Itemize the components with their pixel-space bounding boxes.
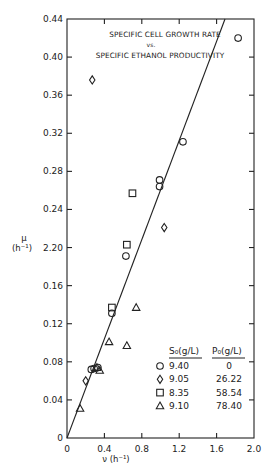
legend-p0-value: 78.40 bbox=[216, 401, 242, 411]
y-tick-label: 0.24 bbox=[43, 204, 63, 214]
x-tick-label: 2.0 bbox=[247, 444, 262, 454]
x-tick-label: 0.4 bbox=[97, 444, 112, 454]
y-tick-label: 0.32 bbox=[43, 128, 63, 138]
triangle-marker-icon bbox=[132, 304, 139, 311]
y-tick-label: 0.16 bbox=[43, 281, 63, 291]
y-tick-label: 0.28 bbox=[43, 166, 63, 176]
legend: S₀(g/L)P₀(g/L)9.4009.0526.228.3558.549.1… bbox=[156, 346, 245, 411]
y-axis-symbol: μ bbox=[21, 233, 27, 243]
y-axis-unit: (h⁻¹) bbox=[12, 243, 32, 253]
circle-marker-icon bbox=[180, 139, 187, 146]
legend-p0-value: 26.22 bbox=[216, 374, 242, 384]
triangle-marker-icon bbox=[105, 338, 112, 345]
y-tick-label: 2.20 bbox=[43, 243, 63, 253]
y-tick-label: 0.44 bbox=[43, 14, 63, 24]
title-line-1: SPECIFIC CELL GROWTH RATE bbox=[109, 30, 221, 39]
x-tick-label: 1.2 bbox=[172, 444, 186, 454]
y-tick-label: 0.12 bbox=[43, 319, 63, 329]
circle-marker-icon bbox=[123, 253, 130, 260]
legend-s0-value: 8.35 bbox=[169, 388, 189, 398]
circle-marker-icon bbox=[156, 177, 163, 184]
legend-header-s0: S₀(g/L) bbox=[169, 346, 199, 356]
y-tick-label: 0.04 bbox=[43, 395, 63, 405]
square-marker-icon bbox=[157, 389, 164, 396]
title-line-2: SPECIFIC ETHANOL PRODUCTIVITY bbox=[96, 51, 225, 60]
triangle-marker-icon bbox=[76, 405, 83, 412]
legend-s0-value: 9.10 bbox=[169, 401, 189, 411]
circle-marker-icon bbox=[157, 363, 164, 370]
square-marker-icon bbox=[124, 241, 131, 248]
triangle-marker-icon bbox=[156, 402, 163, 409]
legend-p0-value: 58.54 bbox=[216, 388, 242, 398]
title-vs: vs. bbox=[147, 41, 156, 48]
x-axis-label: ν (h⁻¹) bbox=[102, 454, 129, 464]
y-tick-label: 0.36 bbox=[43, 90, 63, 100]
chart-title: SPECIFIC CELL GROWTH RATE vs. SPECIFIC E… bbox=[96, 30, 225, 60]
x-tick-label: 0 bbox=[64, 444, 70, 454]
diamond-marker-icon bbox=[162, 223, 167, 231]
diamond-marker-icon bbox=[157, 375, 162, 383]
x-tick-label: 0.8 bbox=[135, 444, 150, 454]
legend-s0-value: 9.40 bbox=[169, 361, 189, 371]
y-tick-label: 0 bbox=[57, 433, 63, 443]
y-tick-label: 0.08 bbox=[43, 357, 63, 367]
diamond-marker-icon bbox=[90, 76, 95, 84]
x-tick-label: 1.6 bbox=[209, 444, 224, 454]
legend-p0-value: 0 bbox=[226, 361, 232, 371]
scatter-chart: 00.40.81.21.62.000.040.080.120.162.200.2… bbox=[0, 0, 274, 475]
y-axis-label: μ (h⁻¹) bbox=[12, 233, 32, 253]
square-marker-icon bbox=[129, 190, 136, 197]
triangle-marker-icon bbox=[123, 342, 130, 349]
y-tick-label: 0.40 bbox=[43, 52, 63, 62]
circle-marker-icon bbox=[235, 35, 242, 42]
legend-header-p0: P₀(g/L) bbox=[212, 346, 242, 356]
legend-s0-value: 9.05 bbox=[169, 374, 189, 384]
